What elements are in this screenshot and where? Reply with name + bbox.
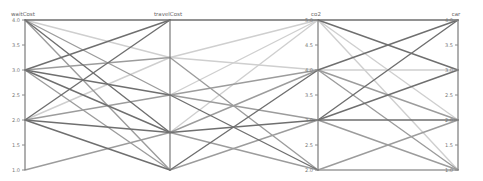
- link-waitCost-travelCost: [25, 20, 170, 70]
- tick-label: 4.0: [445, 17, 453, 23]
- link-waitCost-travelCost: [25, 133, 170, 171]
- axis-title: travelCost: [154, 11, 183, 17]
- tick-label: 3.0: [12, 67, 20, 73]
- tick-label: 3.5: [305, 92, 313, 98]
- link-waitCost-travelCost: [25, 20, 170, 170]
- link-travelCost-co2: [170, 70, 318, 170]
- tick-label: 2.5: [12, 92, 20, 98]
- link-waitCost-travelCost: [25, 70, 170, 133]
- tick-label: 2.0: [305, 167, 313, 173]
- tick-label: 1.5: [445, 142, 453, 148]
- tick-label: 3.0: [305, 117, 313, 123]
- tick-label: 2.0: [12, 117, 20, 123]
- link-waitCost-travelCost: [25, 20, 170, 95]
- link-travelCost-co2: [170, 95, 318, 170]
- axis-waitCost[interactable]: waitCost4.03.53.02.52.01.51.0: [11, 11, 36, 173]
- tick-label: 1.0: [12, 167, 20, 173]
- tick-label: 1.5: [12, 142, 20, 148]
- link-waitCost-travelCost: [25, 58, 170, 121]
- link-travelCost-co2: [170, 20, 318, 58]
- link-travelCost-co2: [170, 120, 318, 133]
- link-waitCost-travelCost: [25, 70, 170, 170]
- axis-car[interactable]: car4.03.53.02.52.01.51.0: [445, 11, 461, 173]
- link-travelCost-co2: [170, 120, 318, 170]
- tick-label: 3.5: [12, 42, 20, 48]
- link-waitCost-travelCost: [25, 20, 170, 120]
- axis-title: car: [452, 11, 461, 17]
- link-waitCost-travelCost: [25, 70, 170, 95]
- tick-label: 1.0: [445, 167, 453, 173]
- tick-label: 4.0: [305, 67, 313, 73]
- link-waitCost-travelCost: [25, 58, 170, 71]
- tick-label: 5.0: [305, 17, 313, 23]
- parallel-coordinates-chart: waitCost4.03.53.02.52.01.51.0travelCostc…: [0, 0, 483, 181]
- link-travelCost-co2: [170, 20, 318, 95]
- polyline-layer: [25, 20, 458, 170]
- axis-co2[interactable]: co25.04.54.03.53.02.52.0: [305, 11, 321, 173]
- link-travelCost-co2: [170, 58, 318, 71]
- tick-label: 2.0: [445, 117, 453, 123]
- tick-label: 4.0: [12, 17, 20, 23]
- link-waitCost-travelCost: [25, 20, 170, 58]
- tick-label: 2.5: [305, 142, 313, 148]
- tick-label: 3.5: [445, 42, 453, 48]
- tick-label: 4.5: [305, 42, 313, 48]
- link-waitCost-travelCost: [25, 120, 170, 133]
- link-waitCost-travelCost: [25, 120, 170, 170]
- tick-label: 3.0: [445, 67, 453, 73]
- link-travelCost-co2: [170, 70, 318, 133]
- link-travelCost-co2: [170, 133, 318, 171]
- tick-label: 2.5: [445, 92, 453, 98]
